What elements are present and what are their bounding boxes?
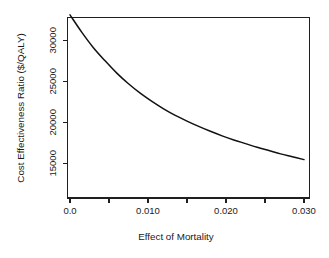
y-tick-label-15000: 15000	[47, 150, 58, 176]
y-axis-tick-labels: 30000 25000 20000 15000	[47, 27, 58, 176]
x-axis-title: Effect of Mortality	[138, 231, 214, 242]
chart-figure: 30000 25000 20000 15000 0.0 0.010 0.020 …	[0, 0, 329, 258]
cost-effectiveness-line-chart: 30000 25000 20000 15000 0.0 0.010 0.020 …	[0, 0, 329, 258]
x-tick-label-0.0: 0.0	[63, 205, 76, 216]
data-curve-cost-effectiveness	[70, 15, 304, 160]
y-tick-label-30000: 30000	[47, 27, 58, 53]
x-tick-label-0.010: 0.010	[136, 205, 160, 216]
plot-box	[68, 18, 310, 199]
y-axis-ticks	[63, 40, 68, 163]
x-axis-ticks	[70, 198, 304, 203]
x-axis-tick-labels: 0.0 0.010 0.020 0.030	[63, 205, 316, 216]
y-tick-label-25000: 25000	[47, 68, 58, 94]
y-axis-title: Cost Effectiveness Ratio ($/QALY)	[15, 33, 26, 182]
x-tick-label-0.020: 0.020	[214, 205, 238, 216]
x-tick-label-0.030: 0.030	[292, 205, 316, 216]
y-tick-label-20000: 20000	[47, 109, 58, 135]
